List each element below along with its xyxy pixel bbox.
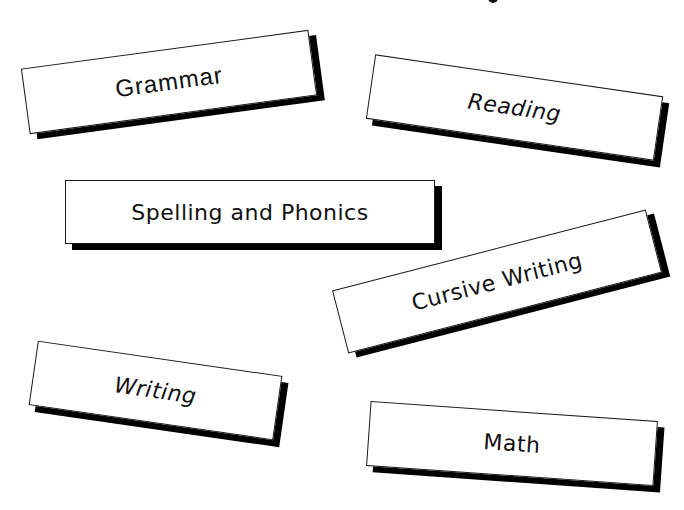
subject-card-label: Grammar bbox=[113, 61, 224, 103]
subject-card-writing: Writing bbox=[29, 341, 283, 441]
subject-card-spelling-and-phonics: Spelling and Phonics bbox=[65, 180, 435, 244]
cut-off-text-fragment bbox=[488, 0, 498, 3]
subject-card-math: Math bbox=[366, 401, 658, 486]
subject-card-label: Spelling and Phonics bbox=[131, 200, 368, 225]
subject-card-label: Reading bbox=[466, 88, 562, 126]
subject-card-label: Cursive Writing bbox=[409, 247, 585, 315]
subject-card-grammar: Grammar bbox=[21, 30, 317, 134]
subject-card-label: Writing bbox=[113, 372, 198, 409]
subject-card-label: Math bbox=[483, 429, 542, 458]
subject-labels-canvas: Grammar Reading Spelling and Phonics Cur… bbox=[0, 0, 684, 510]
subject-card-reading: Reading bbox=[366, 54, 663, 160]
